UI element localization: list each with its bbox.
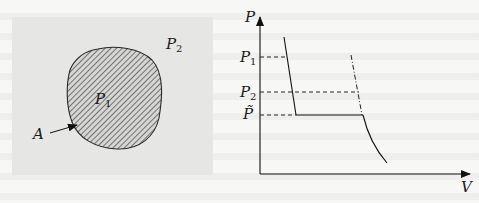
boundary-arrow <box>50 125 77 133</box>
outside-label-p2: P2 <box>166 37 182 54</box>
tick-label-p2: P2 <box>240 85 256 102</box>
x-axis-label: V <box>461 180 472 195</box>
y-axis-label: P <box>245 10 255 25</box>
boundary-label-a: A <box>33 127 44 142</box>
droplet-region <box>67 47 161 149</box>
tick-label-p1: P1 <box>240 50 256 67</box>
liquid-branch-curve <box>284 37 296 115</box>
metastable-branch-curve <box>351 55 362 115</box>
gas-branch-curve <box>363 115 387 163</box>
region-label-p1: P1 <box>95 92 111 109</box>
tick-label-ptilde: P̃ <box>243 107 253 122</box>
